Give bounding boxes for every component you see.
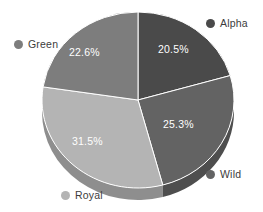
legend-item-label: Green bbox=[28, 39, 58, 50]
legend-color-swatch-icon bbox=[61, 191, 70, 200]
legend-item-alpha[interactable]: Alpha bbox=[206, 18, 248, 29]
pie-chart: 20.5% 22.6% 25.3% 31.5% Alpha Green Wild… bbox=[0, 0, 263, 212]
pie-slice-value-alpha: 20.5% bbox=[158, 44, 189, 55]
pie-chart-canvas bbox=[0, 0, 263, 212]
legend-color-swatch-icon bbox=[206, 170, 215, 179]
legend-item-label: Alpha bbox=[220, 18, 248, 29]
legend-item-green[interactable]: Green bbox=[14, 39, 58, 50]
pie-slice-value-green: 22.6% bbox=[69, 47, 100, 58]
legend-color-swatch-icon bbox=[206, 19, 215, 28]
legend-item-label: Royal bbox=[75, 190, 103, 201]
pie-slice-value-royal: 31.5% bbox=[72, 136, 103, 147]
legend-item-royal[interactable]: Royal bbox=[61, 190, 103, 201]
pie-slice-value-wild: 25.3% bbox=[163, 119, 194, 130]
legend-color-swatch-icon bbox=[14, 40, 23, 49]
pie-slices bbox=[42, 12, 234, 188]
legend-item-wild[interactable]: Wild bbox=[206, 169, 241, 180]
legend-item-label: Wild bbox=[220, 169, 241, 180]
